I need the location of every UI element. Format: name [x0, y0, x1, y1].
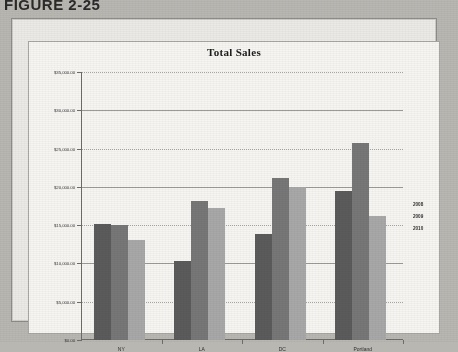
x-axis-tick: [242, 340, 243, 344]
bar: [94, 224, 111, 340]
y-axis-label: $5,000.00: [56, 299, 75, 304]
x-axis-tick: [403, 340, 404, 344]
bar: [335, 191, 352, 340]
y-axis-label: $30,000.00: [54, 108, 75, 113]
chart-legend: 200820092010: [413, 202, 423, 231]
bar: [289, 187, 306, 340]
legend-item-2008: 2008: [413, 202, 423, 207]
chart-frame: Total Sales $0.00$5,000.00$10,000.00$15,…: [28, 41, 440, 334]
y-axis-label: $25,000.00: [54, 146, 75, 151]
bar-group: DC: [242, 72, 323, 340]
bar: [208, 208, 225, 340]
bar: [272, 178, 289, 340]
x-axis-label: Portland: [353, 346, 372, 352]
y-axis-label: $10,000.00: [54, 261, 75, 266]
bar: [369, 216, 386, 340]
bar-group: NY: [81, 72, 162, 340]
figure-caption: FIGURE 2-25: [4, 0, 100, 13]
x-axis-tick: [323, 340, 324, 344]
bar: [174, 261, 191, 340]
y-axis-label: $20,000.00: [54, 184, 75, 189]
x-axis-label: NY: [118, 346, 125, 352]
x-axis-label: DC: [279, 346, 286, 352]
y-axis-label: $15,000.00: [54, 223, 75, 228]
bar: [191, 201, 208, 340]
figure-panel: Total Sales $0.00$5,000.00$10,000.00$15,…: [11, 18, 437, 322]
bar: [111, 225, 128, 340]
y-axis-tick: [77, 340, 82, 341]
y-axis-label: $0.00: [65, 338, 76, 343]
legend-item-2010: 2010: [413, 226, 423, 231]
x-axis-label: LA: [199, 346, 205, 352]
plot-area: $0.00$5,000.00$10,000.00$15,000.00$20,00…: [81, 72, 403, 340]
legend-item-2009: 2009: [413, 214, 423, 219]
chart-title: Total Sales: [29, 46, 439, 58]
bar-group: Portland: [323, 72, 404, 340]
y-axis-label: $35,000.00: [54, 70, 75, 75]
bar: [255, 234, 272, 340]
bar-group: LA: [162, 72, 243, 340]
x-axis-tick: [162, 340, 163, 344]
bar: [128, 240, 145, 340]
bar: [352, 143, 369, 340]
